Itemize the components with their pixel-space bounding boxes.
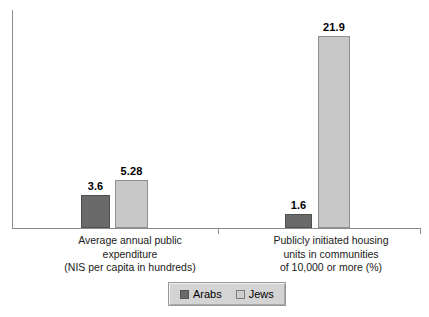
bar-arabs-group-0 <box>81 195 110 228</box>
x-axis-end-tick <box>420 229 421 234</box>
bar-value-label-jews-group-1: 21.9 <box>306 21 362 33</box>
legend-swatch-jews-icon <box>236 290 245 299</box>
legend-label-jews: Jews <box>249 289 274 300</box>
category-label-1: Publicly initiated housingunits in commu… <box>242 234 420 275</box>
bar-jews-group-0 <box>115 180 148 228</box>
category-label-0-line-1: expenditure <box>40 248 220 262</box>
chart-legend: Arabs Jews <box>168 282 286 306</box>
bar-arabs-group-1 <box>285 214 312 228</box>
bar-chart: 3.61.65.2821.9 Average annual publicexpe… <box>0 0 429 317</box>
category-label-1-line-1: units in communities <box>242 248 420 262</box>
plot-area: 3.61.65.2821.9 <box>12 10 421 228</box>
bar-value-label-arabs-group-1: 1.6 <box>273 199 324 211</box>
legend-item-arabs: Arabs <box>180 289 222 300</box>
legend-swatch-arabs-icon <box>180 290 189 299</box>
category-label-1-line-2: of 10,000 or more (%) <box>242 261 420 275</box>
category-label-0-line-2: (NIS per capita in hundreds) <box>40 261 220 275</box>
legend-label-arabs: Arabs <box>193 289 222 300</box>
category-label-0-line-0: Average annual public <box>40 234 220 248</box>
category-label-1-line-0: Publicly initiated housing <box>242 234 420 248</box>
category-label-0: Average annual publicexpenditure(NIS per… <box>40 234 220 275</box>
bar-jews-group-1 <box>318 36 350 228</box>
legend-item-jews: Jews <box>236 289 274 300</box>
x-axis-line <box>12 228 421 229</box>
bar-value-label-jews-group-0: 5.28 <box>103 165 160 177</box>
